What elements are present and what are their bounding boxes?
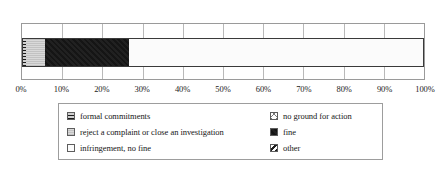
legend-item[interactable]: formal commitments: [67, 111, 270, 121]
legend-item-label: formal commitments: [80, 111, 150, 121]
legend-swatch-icon: [67, 144, 75, 152]
legend-item-label: other: [283, 143, 300, 153]
x-tick-label: 70%: [296, 83, 311, 95]
legend-item[interactable]: reject a complaint or close an investiga…: [67, 127, 270, 137]
stacked-bar-chart: 0%10%20%30%40%50%60%70%80%90%100% formal…: [0, 0, 442, 176]
legend-swatch-icon: [270, 128, 278, 136]
legend-item-label: fine: [283, 127, 296, 137]
plot-area: [21, 23, 425, 80]
legend-item-label: infringement, no fine: [80, 143, 151, 153]
x-tick-label: 0%: [15, 83, 26, 95]
legend: formal commitmentsno ground for actionre…: [58, 103, 383, 160]
x-tick-label: 20%: [94, 83, 109, 95]
legend-item-label: reject a complaint or close an investiga…: [80, 127, 224, 137]
x-tick-label: 40%: [175, 83, 190, 95]
legend-item[interactable]: other: [270, 143, 375, 153]
legend-swatch-icon: [270, 112, 278, 120]
x-tick-label: 10%: [54, 83, 69, 95]
x-tick-label: 30%: [135, 83, 150, 95]
x-tick-label: 80%: [337, 83, 352, 95]
stacked-bar: [22, 38, 424, 67]
x-axis: 0%10%20%30%40%50%60%70%80%90%100%: [21, 83, 425, 97]
legend-grid: formal commitmentsno ground for actionre…: [67, 108, 375, 156]
legend-item[interactable]: fine: [270, 127, 375, 137]
bar-segment: [26, 38, 45, 67]
x-tick-label: 50%: [215, 83, 230, 95]
legend-item[interactable]: infringement, no fine: [67, 143, 270, 153]
legend-swatch-icon: [67, 112, 75, 120]
x-tick-label: 100%: [415, 83, 434, 95]
bar-segment: [129, 38, 424, 67]
legend-item-label: no ground for action: [283, 111, 352, 121]
legend-swatch-icon: [270, 144, 278, 152]
x-tick-label: 60%: [256, 83, 271, 95]
legend-item[interactable]: no ground for action: [270, 111, 375, 121]
legend-swatch-icon: [67, 128, 75, 136]
bar-segment: [45, 38, 129, 67]
x-tick-label: 90%: [377, 83, 392, 95]
